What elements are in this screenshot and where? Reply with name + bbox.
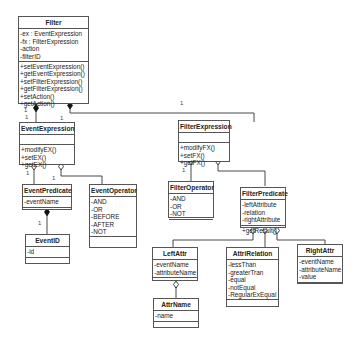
method: +setEventExpression() <box>20 63 87 70</box>
class-attr-name[interactable]: AttrName -name <box>153 298 199 328</box>
class-name: RightAttr <box>298 245 342 257</box>
methods <box>298 283 342 292</box>
attribute: -fx : FilterExpression <box>20 38 87 45</box>
attribute: -eventName <box>24 198 70 205</box>
attribute: -action <box>20 45 87 52</box>
method: +getAction() <box>20 100 87 107</box>
attributes: -lessThan -greaterTran -equal -notEqual … <box>227 260 278 300</box>
attributes: -name <box>154 311 198 321</box>
uml-class-diagram: 1 1 1 1 1 1 1 1 Filter -ex : EventExpres… <box>0 0 360 345</box>
attribute: -equal <box>228 276 277 283</box>
attribute: -NOT <box>170 210 212 217</box>
multiplicity-label: 1 <box>52 175 55 181</box>
class-name: EventExpression <box>20 123 74 135</box>
class-name: EventPredicate <box>23 185 71 197</box>
class-name: AttriRelation <box>227 248 278 260</box>
class-filter[interactable]: Filter -ex : EventExpression -fx : Filte… <box>18 16 89 104</box>
class-name: FilterOperator <box>169 182 213 194</box>
multiplicity-label: 1 <box>60 115 63 121</box>
attribute: -rightAttribute <box>242 216 284 223</box>
method: +setEX() <box>21 154 73 161</box>
methods <box>153 278 197 287</box>
class-attri-relation[interactable]: AttriRelation -lessThan -greaterTran -eq… <box>226 247 279 307</box>
methods <box>227 300 278 309</box>
attribute: -AND <box>91 198 135 205</box>
attributes: -AND -OR -NOT <box>169 194 213 219</box>
class-filter-expression[interactable]: FilterExpression +modifyFX() +setFX() +g… <box>178 120 230 162</box>
attribute: -RegularExEqual <box>228 291 277 298</box>
attribute: -ex : EventExpression <box>20 30 87 37</box>
methods <box>90 237 136 246</box>
attribute: -OR <box>91 206 135 213</box>
methods: +getResult() <box>241 226 285 235</box>
methods <box>23 208 71 217</box>
attribute: -relation <box>242 209 284 216</box>
attribute: -attributeName <box>299 266 341 273</box>
attributes: -AND -OR -BEFORE -AFTER -NOT <box>90 197 136 237</box>
class-filter-operator[interactable]: FilterOperator -AND -OR -NOT <box>168 181 214 218</box>
methods: +modifyFX() +setFX() +getFX() <box>179 143 229 167</box>
class-event-id[interactable]: EventID -id <box>25 234 70 264</box>
methods <box>26 258 69 267</box>
attributes: -eventName <box>23 197 71 207</box>
class-name: EventOperator <box>90 185 136 197</box>
attribute: -lessThan <box>228 261 277 268</box>
attribute: -attributeName <box>154 269 196 276</box>
attribute: -eventName <box>154 261 196 268</box>
methods <box>154 322 198 331</box>
multiplicity-label: 1 <box>182 167 185 173</box>
multiplicity-label: 1 <box>180 100 183 106</box>
method: +setFX() <box>180 152 228 159</box>
method: +modifyEX() <box>21 146 73 153</box>
attribute: -OR <box>170 203 212 210</box>
method: +getEX() <box>21 161 73 168</box>
attribute: -leftAttribute <box>242 201 284 208</box>
class-name: LeftAttr <box>153 248 197 260</box>
attributes: -ex : EventExpression -fx : FilterExpres… <box>19 29 88 62</box>
attributes <box>20 135 74 145</box>
method: +modifyFX() <box>180 144 228 151</box>
attribute: -BEFORE <box>91 213 135 220</box>
method: +setAction() <box>20 93 87 100</box>
attributes: -leftAttribute -relation -rightAttribute <box>241 200 285 225</box>
attribute: -AND <box>170 195 212 202</box>
attribute: -greaterTran <box>228 269 277 276</box>
methods <box>169 220 213 229</box>
attributes: -eventName -attributeName -value <box>298 257 342 282</box>
class-name: FilterPredicate <box>241 188 285 200</box>
attribute: -value <box>299 273 341 280</box>
attribute: -id <box>27 248 68 255</box>
attribute: -eventName <box>299 258 341 265</box>
method: +getFilterExpression() <box>20 85 87 92</box>
class-event-operator[interactable]: EventOperator -AND -OR -BEFORE -AFTER -N… <box>89 184 137 248</box>
multiplicity-label: 1 <box>38 220 41 226</box>
attribute: -filterID <box>20 53 87 60</box>
class-right-attr[interactable]: RightAttr -eventName -attributeName -val… <box>297 244 343 284</box>
class-name: EventID <box>26 235 69 247</box>
attributes: -eventName -attributeName <box>153 260 197 278</box>
methods: +modifyEX() +setEX() +getEX() <box>20 145 74 169</box>
class-name: Filter <box>19 17 88 29</box>
attributes: -id <box>26 247 69 257</box>
attributes <box>179 133 229 143</box>
method: +getEventExpression() <box>20 70 87 77</box>
class-event-predicate[interactable]: EventPredicate -eventName <box>22 184 72 210</box>
method: +getFX() <box>180 159 228 166</box>
method: +getResult() <box>242 227 284 234</box>
attribute: -AFTER <box>91 221 135 228</box>
class-name: AttrName <box>154 299 198 311</box>
methods: +setEventExpression() +getEventExpressio… <box>19 62 88 108</box>
class-name: FilterExpression <box>179 121 229 133</box>
multiplicity-label: 1 <box>26 170 29 176</box>
multiplicity-label: 1 <box>25 114 28 120</box>
class-event-expression[interactable]: EventExpression +modifyEX() +setEX() +ge… <box>19 122 75 165</box>
class-left-attr[interactable]: LeftAttr -eventName -attributeName <box>152 247 198 281</box>
attribute: -name <box>155 312 197 319</box>
attribute: -NOT <box>91 228 135 235</box>
method: +setFilterExpression() <box>20 78 87 85</box>
class-filter-predicate[interactable]: FilterPredicate -leftAttribute -relation… <box>240 187 286 228</box>
attribute: -notEqual <box>228 284 277 291</box>
